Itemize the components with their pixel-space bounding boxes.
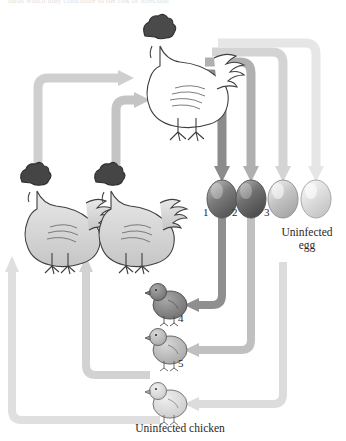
hen1-comb-head (21, 162, 51, 185)
egg-3 (268, 180, 298, 218)
source-hen (144, 14, 244, 141)
egg-label-3: 3 (264, 207, 270, 219)
left-hen-2 (95, 162, 187, 274)
egg-2 (236, 180, 266, 218)
chick5-beak (145, 336, 150, 340)
chick4-head (150, 284, 167, 301)
chick-label-5: 5 (178, 358, 184, 370)
uninfected-egg-caption-line1: Uninfected (271, 226, 343, 238)
arrow-egg3-to-chick6 (184, 262, 283, 411)
egg-4-uninfected (301, 180, 331, 218)
egg-label-2: 2 (232, 207, 238, 219)
uninfected-egg-caption-line2: egg (271, 239, 343, 251)
arrow-chick-to-hen-inner (79, 256, 150, 375)
hen-comb-head (144, 14, 176, 38)
chick6-beak (145, 390, 150, 394)
arrow-egg2-to-chick5 (184, 218, 251, 357)
uninfected-chicken-caption: Uninfected chicken (80, 422, 280, 434)
chick5-head (150, 329, 167, 346)
egg-label-1: 1 (203, 207, 209, 219)
chick-label-4: 4 (178, 313, 184, 325)
diagram-canvas: birds which may contribute to the risk o… (0, 0, 346, 441)
transmission-cycle-illustration (0, 0, 346, 441)
chick6-head (150, 383, 167, 400)
chick4-beak (145, 291, 150, 295)
arrow-egg1-to-chick4 (184, 218, 222, 312)
hen2-tail (160, 199, 187, 230)
